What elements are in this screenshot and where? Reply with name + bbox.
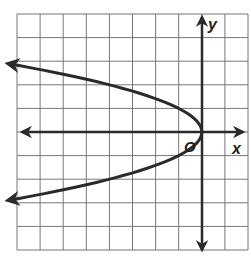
- x-axis-label: x: [231, 140, 242, 157]
- y-axis-label: y: [207, 16, 218, 33]
- origin-label: O: [184, 138, 196, 155]
- parabola-graph: y x O: [0, 0, 251, 266]
